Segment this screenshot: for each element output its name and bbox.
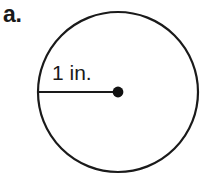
circle-diagram: 1 in. xyxy=(0,0,204,182)
center-point-dot xyxy=(113,87,124,98)
radius-length-label: 1 in. xyxy=(52,61,92,84)
geometry-figure-panel: a. 1 in. xyxy=(0,0,204,182)
